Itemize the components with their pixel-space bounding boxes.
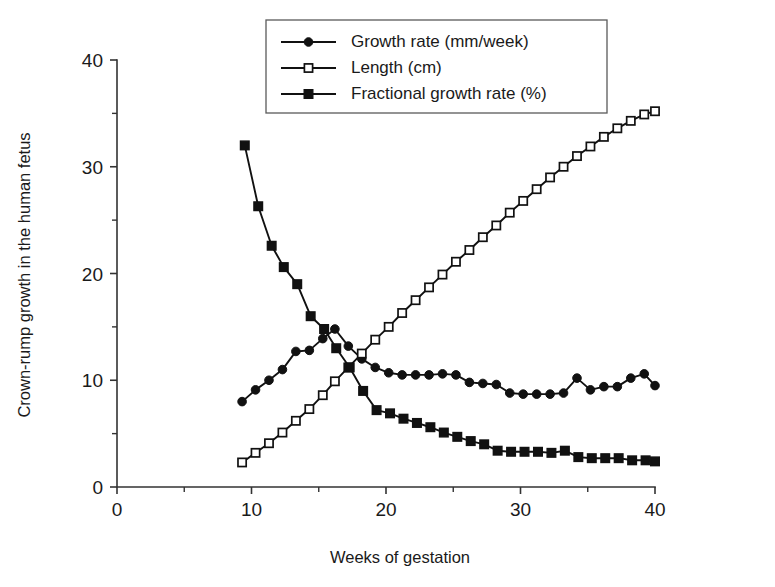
marker-filled-circle bbox=[265, 376, 274, 385]
marker-filled-circle bbox=[586, 386, 595, 395]
marker-filled-square bbox=[466, 437, 475, 446]
marker-filled-circle bbox=[251, 386, 260, 395]
axes bbox=[110, 60, 655, 494]
marker-filled-circle bbox=[546, 390, 555, 399]
marker-filled-circle bbox=[384, 368, 393, 377]
marker-filled-circle bbox=[626, 374, 635, 383]
y-tick-label: 30 bbox=[82, 157, 103, 178]
marker-filled-circle bbox=[479, 379, 488, 388]
marker-filled-square bbox=[399, 414, 408, 423]
x-tick-label: 40 bbox=[644, 499, 665, 520]
marker-open-square bbox=[546, 173, 554, 181]
marker-filled-square bbox=[453, 433, 462, 442]
y-tick-label: 20 bbox=[82, 264, 103, 285]
legend-item-label: Fractional growth rate (%) bbox=[351, 84, 547, 103]
figure-container: 010203040010203040 Weeks of gestation Cr… bbox=[0, 0, 775, 587]
series-1 bbox=[238, 325, 660, 406]
marker-filled-circle bbox=[640, 370, 649, 379]
marker-open-square bbox=[319, 391, 327, 399]
marker-filled-square bbox=[547, 449, 556, 458]
marker-filled-circle bbox=[465, 378, 474, 387]
marker-filled-square bbox=[267, 241, 276, 250]
marker-filled-square bbox=[628, 456, 637, 465]
marker-filled-circle bbox=[238, 397, 247, 406]
line-chart: 010203040010203040 Weeks of gestation Cr… bbox=[0, 0, 775, 587]
marker-filled-circle bbox=[398, 371, 407, 380]
x-axis-title: Weeks of gestation bbox=[330, 548, 470, 566]
x-tick-label: 30 bbox=[510, 499, 531, 520]
marker-filled-circle bbox=[452, 371, 461, 380]
marker-open-square bbox=[385, 323, 393, 331]
marker-open-square bbox=[305, 405, 313, 413]
marker-filled-square bbox=[332, 344, 341, 353]
marker-filled-square bbox=[520, 447, 529, 456]
marker-open-square bbox=[651, 107, 659, 115]
x-tick-label: 10 bbox=[241, 499, 262, 520]
marker-filled-square bbox=[480, 440, 489, 449]
series-line bbox=[242, 111, 655, 462]
marker-open-square bbox=[506, 209, 514, 217]
marker-filled-circle bbox=[438, 370, 447, 379]
marker-filled-square bbox=[413, 419, 422, 428]
marker-filled-square bbox=[614, 454, 623, 463]
marker-filled-circle bbox=[278, 365, 287, 374]
marker-open-square bbox=[265, 439, 273, 447]
marker-open-square bbox=[358, 349, 366, 357]
marker-filled-circle bbox=[304, 38, 313, 47]
marker-filled-circle bbox=[425, 371, 434, 380]
y-tick-label: 0 bbox=[92, 477, 103, 498]
y-axis-title: Crown-rump growth in the human fetus bbox=[15, 132, 33, 417]
marker-open-square bbox=[492, 221, 500, 229]
marker-open-square bbox=[292, 417, 300, 425]
marker-filled-square bbox=[372, 406, 381, 415]
marker-filled-square bbox=[279, 263, 288, 272]
marker-open-square bbox=[640, 110, 648, 118]
marker-filled-circle bbox=[573, 374, 582, 383]
marker-filled-square bbox=[440, 428, 449, 437]
marker-filled-square bbox=[320, 325, 329, 334]
marker-filled-circle bbox=[492, 380, 501, 389]
marker-filled-square bbox=[306, 312, 315, 321]
marker-open-square bbox=[465, 246, 473, 254]
marker-filled-square bbox=[240, 141, 249, 150]
marker-open-square bbox=[331, 377, 339, 385]
marker-filled-circle bbox=[600, 382, 609, 391]
marker-filled-circle bbox=[559, 389, 568, 398]
marker-filled-circle bbox=[519, 390, 528, 399]
marker-open-square bbox=[519, 197, 527, 205]
marker-filled-circle bbox=[505, 389, 514, 398]
x-tick-label: 20 bbox=[375, 499, 396, 520]
marker-filled-square bbox=[386, 409, 395, 418]
marker-filled-square bbox=[345, 363, 354, 372]
marker-open-square bbox=[559, 163, 567, 171]
marker-filled-circle bbox=[411, 371, 420, 380]
marker-open-square bbox=[425, 283, 433, 291]
marker-open-square bbox=[479, 233, 487, 241]
marker-filled-circle bbox=[292, 347, 301, 356]
data-series bbox=[238, 107, 660, 466]
legend-item-label: Length (cm) bbox=[351, 58, 442, 77]
marker-filled-square bbox=[493, 446, 502, 455]
marker-open-square bbox=[452, 258, 460, 266]
marker-open-square bbox=[411, 296, 419, 304]
marker-filled-square bbox=[359, 387, 368, 396]
marker-filled-square bbox=[426, 423, 435, 432]
marker-filled-square bbox=[561, 446, 570, 455]
chart-legend: Growth rate (mm/week)Length (cm)Fraction… bbox=[266, 20, 607, 113]
marker-open-square bbox=[627, 117, 635, 125]
marker-filled-square bbox=[574, 453, 583, 462]
tick-labels: 010203040010203040 bbox=[82, 50, 666, 520]
series-3 bbox=[240, 141, 659, 466]
marker-filled-square bbox=[293, 280, 302, 289]
x-tick-label: 0 bbox=[112, 499, 123, 520]
marker-open-square bbox=[251, 449, 259, 457]
marker-filled-circle bbox=[651, 381, 660, 390]
marker-filled-circle bbox=[371, 363, 380, 372]
marker-filled-square bbox=[601, 454, 610, 463]
marker-filled-circle bbox=[344, 342, 353, 351]
marker-open-square bbox=[438, 270, 446, 278]
marker-filled-square bbox=[254, 202, 263, 211]
marker-filled-circle bbox=[613, 382, 622, 391]
marker-filled-circle bbox=[331, 325, 340, 334]
marker-open-square bbox=[304, 64, 312, 72]
